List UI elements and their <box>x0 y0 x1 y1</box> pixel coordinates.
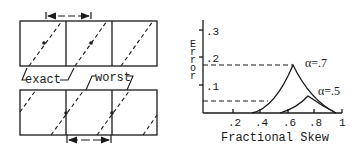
x-tick-0.8: .8 <box>309 117 322 129</box>
top-dot-1 <box>42 41 46 45</box>
x-tick-0.4: .4 <box>255 117 269 129</box>
y-tick-0.1: .1 <box>206 81 220 93</box>
y-axis-label: E r r o r <box>190 39 196 82</box>
y-tick-0.2: .2 <box>206 53 219 65</box>
bottom-span-arrow <box>67 135 111 143</box>
series-label-alpha-0.7: α=.7 <box>305 56 327 70</box>
x-axis-label: Fractional Skew <box>221 131 330 145</box>
figure: exact worst .3 .2 .1 E r r o r <box>0 0 362 150</box>
top-dot-2 <box>89 41 93 45</box>
bottom-row-dashed-lines <box>20 90 157 135</box>
bottom-dot-1 <box>64 111 68 115</box>
bottom-row <box>20 90 157 135</box>
exact-label: exact <box>25 73 61 87</box>
svg-text:r: r <box>190 71 196 82</box>
x-tick-1: 1 <box>339 117 346 129</box>
error-chart: .3 .2 .1 E r r o r .2 .4 .6 .8 1 Fractio… <box>190 20 346 145</box>
x-tick-0.2: .2 <box>228 117 241 129</box>
y-tick-0.3: .3 <box>206 26 219 38</box>
top-row <box>20 21 157 66</box>
worst-label: worst <box>95 71 131 85</box>
series-label-alpha-0.5: α=.5 <box>318 84 340 98</box>
x-tick-0.6: .6 <box>283 117 296 129</box>
top-span-arrow <box>46 12 91 19</box>
bottom-dot-2 <box>110 111 114 115</box>
curve-alpha-0.5 <box>280 96 336 113</box>
